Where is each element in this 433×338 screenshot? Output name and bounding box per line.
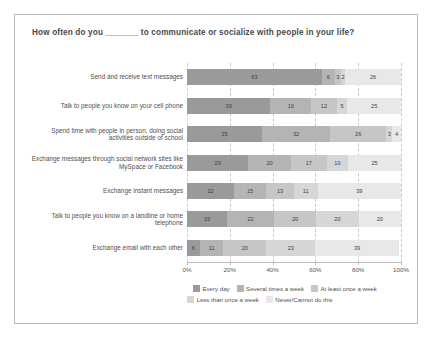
legend-item[interactable]: At least once a week bbox=[311, 285, 377, 292]
bar-segment: 22 bbox=[227, 211, 274, 227]
bar-value-label: 11 bbox=[209, 245, 215, 251]
bar-value-label: 4 bbox=[395, 131, 398, 137]
bar-segment: 26 bbox=[345, 69, 401, 85]
bar-segment: 39 bbox=[315, 240, 398, 256]
bar-value-label: 63 bbox=[251, 74, 257, 80]
bar-segment: 25 bbox=[347, 98, 401, 114]
legend-label: Several times a week bbox=[246, 285, 304, 292]
bar-segment: 20 bbox=[274, 211, 316, 227]
bar-segment: 29 bbox=[187, 155, 248, 171]
bar-row: 1922202020 bbox=[187, 211, 401, 227]
axis-tick bbox=[187, 262, 188, 265]
category-label: Exchange messages through social network… bbox=[25, 155, 183, 170]
bar-value-label: 35 bbox=[221, 131, 227, 137]
bar-value-label: 19 bbox=[288, 103, 294, 109]
bar-value-label: 6 bbox=[327, 74, 330, 80]
category-label: Send and receive text messages bbox=[25, 73, 183, 81]
bar-value-label: 22 bbox=[247, 216, 253, 222]
bar-segment: 19 bbox=[187, 211, 227, 227]
bar-segment: 25 bbox=[348, 155, 401, 171]
bar-segment: 5 bbox=[337, 98, 348, 114]
legend-swatch bbox=[237, 285, 244, 292]
legend-item[interactable]: Never/Cannot do this bbox=[266, 296, 333, 303]
bar-segment: 6 bbox=[322, 69, 335, 85]
bar-row: 391912525 bbox=[187, 98, 401, 114]
bar-segment: 10 bbox=[327, 155, 348, 171]
bar-segment: 23 bbox=[266, 240, 315, 256]
bar-segment: 6 bbox=[187, 240, 200, 256]
bar-segment: 17 bbox=[291, 155, 327, 171]
bar-value-label: 39 bbox=[354, 245, 360, 251]
plot-area: 6363226391912525353226342920171025221513… bbox=[187, 63, 401, 262]
bar-value-label: 25 bbox=[371, 103, 377, 109]
bar-value-label: 6 bbox=[192, 245, 195, 251]
chart-panel: How often do you _______ to communicate … bbox=[14, 14, 418, 324]
gridline bbox=[401, 63, 403, 262]
bar-value-label: 5 bbox=[341, 103, 344, 109]
legend-item[interactable]: Several times a week bbox=[237, 285, 304, 292]
bar-segment: 20 bbox=[316, 211, 358, 227]
category-label: Talk to people you know on a landline or… bbox=[25, 212, 183, 227]
bar-segment: 12 bbox=[311, 98, 337, 114]
legend-item[interactable]: Less than once a week bbox=[187, 296, 259, 303]
chart-legend: Every daySeveral times a weekAt least on… bbox=[187, 283, 419, 305]
bar-row: 611202339 bbox=[187, 240, 401, 256]
axis-tick bbox=[358, 262, 359, 265]
category-label: Spend time with people in person, doing … bbox=[25, 127, 183, 142]
bar-value-label: 19 bbox=[204, 216, 210, 222]
bar-value-label: 25 bbox=[371, 160, 377, 166]
bar-value-label: 22 bbox=[207, 188, 213, 194]
legend-row: Less than once a weekNever/Cannot do thi… bbox=[187, 294, 419, 305]
axis-tick bbox=[230, 262, 231, 265]
bar-value-label: 12 bbox=[321, 103, 327, 109]
stacked-bar-chart: Send and receive text messagesTalk to pe… bbox=[15, 15, 419, 325]
bar-value-label: 20 bbox=[267, 160, 273, 166]
bar-value-label: 2 bbox=[342, 74, 345, 80]
axis-tick-label: 20% bbox=[224, 266, 236, 273]
bar-row: 2215131139 bbox=[187, 183, 401, 199]
bar-segment: 22 bbox=[187, 183, 234, 199]
bar-segment: 11 bbox=[200, 240, 224, 256]
bar-value-label: 20 bbox=[242, 245, 248, 251]
legend-label: At least once a week bbox=[321, 285, 377, 292]
bar-value-label: 13 bbox=[277, 188, 283, 194]
value-axis: 0%20%40%60%80%100% bbox=[187, 262, 401, 276]
axis-tick-label: 0% bbox=[183, 266, 192, 273]
bar-segment: 20 bbox=[223, 240, 266, 256]
axis-line bbox=[187, 262, 401, 263]
bar-segment: 32 bbox=[262, 126, 330, 142]
legend-item[interactable]: Every day bbox=[193, 285, 230, 292]
legend-swatch bbox=[187, 296, 194, 303]
bar-segment: 35 bbox=[187, 126, 262, 142]
bar-segment: 15 bbox=[234, 183, 266, 199]
axis-tick-label: 60% bbox=[309, 266, 321, 273]
bar-segment: 4 bbox=[392, 126, 401, 142]
legend-label: Every day bbox=[203, 285, 230, 292]
bar-value-label: 3 bbox=[336, 74, 339, 80]
bar-segment: 20 bbox=[248, 155, 290, 171]
bar-value-label: 20 bbox=[377, 216, 383, 222]
bar-value-label: 3 bbox=[388, 131, 391, 137]
axis-tick-label: 40% bbox=[266, 266, 278, 273]
axis-tick bbox=[315, 262, 316, 265]
axis-tick bbox=[401, 262, 402, 265]
bar-segment: 19 bbox=[270, 98, 311, 114]
bar-value-label: 26 bbox=[355, 131, 361, 137]
bar-value-label: 20 bbox=[334, 216, 340, 222]
axis-tick-label: 100% bbox=[393, 266, 409, 273]
bar-value-label: 17 bbox=[306, 160, 312, 166]
bar-segment: 11 bbox=[294, 183, 318, 199]
category-label: Talk to people you know on your cell pho… bbox=[25, 102, 183, 110]
legend-label: Less than once a week bbox=[197, 296, 259, 303]
bar-value-label: 29 bbox=[215, 160, 221, 166]
bar-row: 2920171025 bbox=[187, 155, 401, 171]
axis-tick bbox=[273, 262, 274, 265]
bar-row: 6363226 bbox=[187, 69, 401, 85]
bar-value-label: 15 bbox=[247, 188, 253, 194]
bar-value-label: 39 bbox=[356, 188, 362, 194]
bar-value-label: 26 bbox=[370, 74, 376, 80]
legend-swatch bbox=[266, 296, 273, 303]
bar-segment: 26 bbox=[330, 126, 386, 142]
axis-tick-label: 80% bbox=[352, 266, 364, 273]
bar-value-label: 23 bbox=[288, 245, 294, 251]
